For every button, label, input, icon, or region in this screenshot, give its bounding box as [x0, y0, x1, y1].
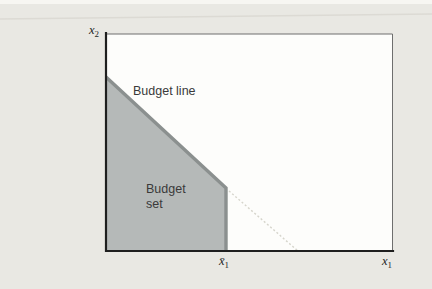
y-axis-label: x2 [89, 23, 99, 38]
y-axis-label-sub: 2 [95, 29, 100, 39]
scan-artifact-line [0, 14, 432, 19]
x-axis-label-sub: 1 [388, 260, 393, 270]
budget-diagram-svg [0, 0, 432, 289]
x-axis-label: x1 [382, 254, 392, 269]
budget-line-label: Budget line [133, 84, 196, 99]
figure-canvas: x2 Budget line Budget set x̄1 x1 [0, 0, 432, 289]
budget-set-label: Budget set [146, 182, 204, 212]
x-bar-tick-label: x̄1 [219, 254, 229, 269]
x-bar-tick-label-sub: 1 [225, 260, 230, 270]
